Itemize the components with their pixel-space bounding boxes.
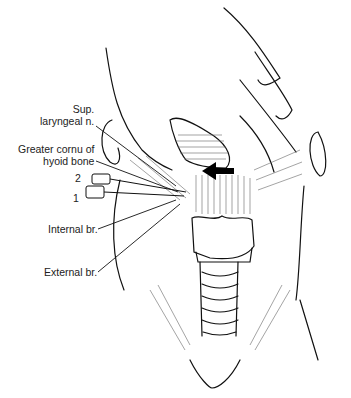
label-line: Sup. [40, 103, 94, 115]
label-internal-branch: Internal br. [48, 223, 98, 235]
needle-number-2: 2 [75, 172, 81, 184]
label-external-branch: External br. [44, 266, 97, 278]
laryngeal-block-illustration [0, 0, 351, 398]
thyroid-cartilage [192, 216, 254, 259]
thumb-outline [170, 118, 230, 168]
right-ear [310, 132, 326, 176]
syringe-1 [86, 186, 184, 198]
label-line: laryngeal n. [40, 115, 94, 127]
label-sup-laryngeal: Sup. laryngeal n. [40, 103, 94, 127]
arrow-left-icon [202, 162, 234, 180]
needle-number-1: 1 [73, 192, 79, 204]
hand-outline [106, 48, 172, 170]
label-line: hyoid bone [18, 155, 94, 167]
label-greater-cornu: Greater cornu of hyoid bone [18, 143, 94, 167]
label-line: Greater cornu of [18, 143, 94, 155]
